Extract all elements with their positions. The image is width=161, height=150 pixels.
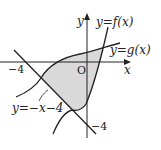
f-label: y=f(x) bbox=[95, 15, 134, 29]
x-axis-label: x bbox=[124, 63, 131, 77]
x-tick-label: −4 bbox=[8, 63, 24, 76]
y-axis-label: y bbox=[76, 14, 84, 28]
y-tick-label: −4 bbox=[91, 120, 107, 133]
y-axis-arrow-icon bbox=[84, 13, 90, 20]
label-pointer bbox=[39, 90, 48, 101]
origin-label: O bbox=[77, 64, 86, 77]
line-label: y=−x−4 bbox=[11, 101, 63, 115]
graph: y x O −4 −4 y=f(x) y=g(x) y=−x−4 bbox=[0, 0, 161, 150]
g-label: y=g(x) bbox=[109, 43, 151, 57]
